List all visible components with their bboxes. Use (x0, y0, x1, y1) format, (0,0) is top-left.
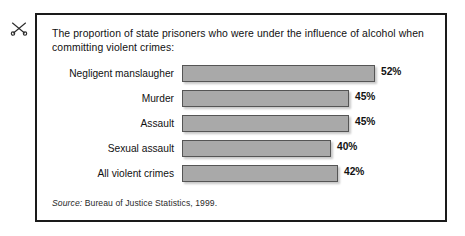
bar-row: Murder 45% (52, 90, 431, 107)
bar-value-label: 40% (337, 141, 357, 152)
source-text: Bureau of Justice Statistics, 1999. (85, 198, 217, 208)
bar-value-label: 52% (381, 66, 401, 77)
bar (182, 165, 338, 182)
source-label: Source: (52, 198, 82, 208)
bar-value-label: 45% (355, 116, 375, 127)
bar-value-label: 42% (344, 166, 364, 177)
bar-row: Assault 45% (52, 115, 431, 132)
bar-row: All violent crimes 42% (52, 165, 431, 182)
bar (182, 90, 349, 107)
bar-track: 40% (182, 140, 431, 157)
bar (182, 140, 331, 157)
bar-track: 45% (182, 90, 431, 107)
figure-frame: The proportion of state prisoners who we… (35, 13, 447, 222)
category-label: All violent crimes (52, 168, 182, 179)
category-label: Negligent manslaugher (52, 68, 182, 79)
bar-track: 42% (182, 165, 431, 182)
bar-track: 45% (182, 115, 431, 132)
bar-value-label: 45% (355, 91, 375, 102)
bar-chart: Negligent manslaugher 52% Murder 45% Ass… (52, 65, 431, 182)
category-label: Murder (52, 93, 182, 104)
chart-caption: The proportion of state prisoners who we… (52, 27, 430, 55)
bar-row: Negligent manslaugher 52% (52, 65, 431, 82)
bar (182, 65, 375, 82)
source-note: Source: Bureau of Justice Statistics, 19… (52, 198, 217, 208)
category-label: Assault (52, 118, 182, 129)
category-label: Sexual assault (52, 143, 182, 154)
bar-row: Sexual assault 40% (52, 140, 431, 157)
scissors-icon (9, 19, 29, 39)
bar-track: 52% (182, 65, 431, 82)
bar (182, 115, 349, 132)
